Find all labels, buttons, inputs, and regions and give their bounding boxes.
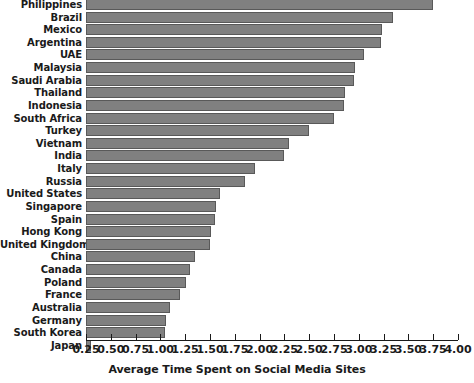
bar [86, 226, 211, 237]
bar [86, 62, 355, 73]
x-axis-tick-label: 0.50 [97, 343, 124, 356]
category-label: Vietnam [0, 138, 82, 149]
category-label: South Korea [0, 327, 82, 338]
category-label: South Africa [0, 113, 82, 124]
x-axis-tick-label: 1.75 [221, 343, 248, 356]
bar [86, 239, 210, 250]
x-axis-tick [309, 334, 310, 340]
bar [86, 163, 255, 174]
bar-row [86, 138, 458, 149]
bar [86, 37, 381, 48]
bar [86, 302, 170, 313]
bar [86, 87, 345, 98]
category-label: Turkey [0, 125, 82, 136]
bar-row [86, 24, 458, 35]
category-label: Thailand [0, 87, 82, 98]
category-label: Germany [0, 315, 82, 326]
bar-row [86, 315, 458, 326]
bar-row [86, 62, 458, 73]
bar [86, 201, 216, 212]
bar [86, 315, 166, 326]
x-axis-tick-label: 2.50 [296, 343, 323, 356]
category-label: Brazil [0, 12, 82, 23]
x-axis-tick-label: 3.50 [395, 343, 422, 356]
bar-row [86, 289, 458, 300]
category-label: Singapore [0, 201, 82, 212]
bar [86, 49, 364, 60]
bar-row [86, 264, 458, 275]
bar [86, 327, 165, 338]
bar-row [86, 87, 458, 98]
bar-row [86, 163, 458, 174]
x-axis-tick [408, 334, 409, 340]
bar [86, 214, 215, 225]
category-label: Philippines [0, 0, 82, 10]
category-label: Saudi Arabia [0, 75, 82, 86]
x-axis-tick-label: 2.25 [271, 343, 298, 356]
category-label: Argentina [0, 37, 82, 48]
x-axis-line [86, 340, 458, 341]
x-axis-tick-label: 0.25 [72, 343, 99, 356]
bar [86, 277, 186, 288]
bar-row [86, 201, 458, 212]
x-axis-tick-label: 2.75 [320, 343, 347, 356]
bar-row [86, 214, 458, 225]
x-axis-tick [210, 334, 211, 340]
category-label: China [0, 251, 82, 262]
bar [86, 176, 245, 187]
x-axis-tick [284, 334, 285, 340]
bar [86, 188, 220, 199]
x-axis-tick-label: 1.25 [172, 343, 199, 356]
x-axis-tick-label: 3.00 [345, 343, 372, 356]
x-axis-tick [384, 334, 385, 340]
category-label: Mexico [0, 24, 82, 35]
bar [86, 264, 190, 275]
bar [86, 113, 334, 124]
bar-row [86, 125, 458, 136]
bar-row [86, 0, 458, 10]
bar [86, 150, 284, 161]
x-axis-tick-label: 1.00 [147, 343, 174, 356]
bar-row [86, 188, 458, 199]
category-label: United States [0, 188, 82, 199]
x-axis-tick-label: 3.75 [420, 343, 447, 356]
bar [86, 12, 393, 23]
bar-row [86, 49, 458, 60]
bar [86, 24, 382, 35]
bar [86, 0, 433, 10]
bar-row [86, 251, 458, 262]
bar-row [86, 12, 458, 23]
bar-row [86, 113, 458, 124]
bar [86, 289, 180, 300]
x-axis-tick [433, 334, 434, 340]
category-label: Hong Kong [0, 226, 82, 237]
bar-row [86, 239, 458, 250]
bar-row [86, 327, 458, 338]
bar [86, 100, 344, 111]
bar-row [86, 150, 458, 161]
bar [86, 251, 195, 262]
x-axis-title: Average Time Spent on Social Media Sites [0, 363, 474, 376]
category-label: Russia [0, 176, 82, 187]
bar-row [86, 302, 458, 313]
x-axis-tick [359, 334, 360, 340]
x-axis-tick [458, 334, 459, 340]
horizontal-bar-chart: PhilippinesBrazilMexicoArgentinaUAEMalay… [0, 0, 474, 383]
x-axis-tick-label: 3.25 [370, 343, 397, 356]
bar-row [86, 37, 458, 48]
x-axis-tick-label: 4.00 [444, 343, 471, 356]
bar-row [86, 277, 458, 288]
x-axis-tick-label: 0.75 [122, 343, 149, 356]
x-axis-tick [235, 334, 236, 340]
category-label: Malaysia [0, 62, 82, 73]
y-axis-category-labels: PhilippinesBrazilMexicoArgentinaUAEMalay… [0, 0, 82, 336]
bar [86, 138, 289, 149]
category-label: United Kingdom [0, 239, 82, 250]
x-axis-tick [136, 334, 137, 340]
bar-row [86, 226, 458, 237]
bar [86, 75, 354, 86]
category-label: Australia [0, 302, 82, 313]
category-label: UAE [0, 49, 82, 60]
x-axis-tick [160, 334, 161, 340]
x-axis-tick-label: 2.00 [246, 343, 273, 356]
